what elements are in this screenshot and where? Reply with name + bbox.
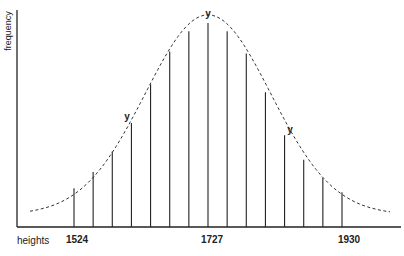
- x-tick-1930: 1930: [338, 234, 360, 245]
- chart-plot: [0, 0, 404, 256]
- x-tick-1727: 1727: [201, 234, 223, 245]
- y-axis-label: frequency: [1, 8, 15, 54]
- annotation-y-right: y: [287, 124, 293, 135]
- x-axis-label: heights: [17, 235, 49, 246]
- frequency-lines: [74, 23, 342, 227]
- annotation-y-left: y: [124, 111, 130, 122]
- x-tick-1524: 1524: [66, 234, 88, 245]
- y-axis-label-text: frequency: [3, 11, 13, 51]
- annotation-y-peak: y: [205, 8, 211, 19]
- dashed-distribution-curve: [30, 15, 390, 212]
